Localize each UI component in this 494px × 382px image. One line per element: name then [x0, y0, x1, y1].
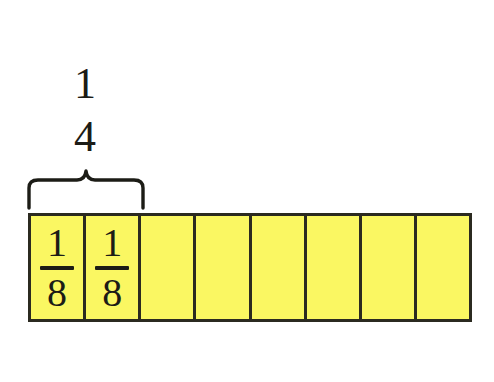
cell-denominator: 8 [47, 273, 67, 313]
cell-numerator: 1 [102, 223, 122, 263]
bar-cell [252, 216, 307, 319]
cell-fraction: 1 8 [40, 223, 74, 313]
fraction-bar: 1 8 1 8 [28, 213, 472, 322]
brace [22, 160, 150, 210]
fraction-numerator: 1 [74, 61, 96, 107]
bar-cell [141, 216, 196, 319]
cell-fraction: 1 8 [95, 223, 129, 313]
bar-cell [196, 216, 251, 319]
fraction-denominator: 4 [74, 114, 96, 160]
cell-fraction-rule [40, 266, 74, 270]
fraction-diagram: 1 4 1 8 1 8 [0, 0, 494, 382]
bar-cell [417, 216, 469, 319]
bar-cell: 1 8 [86, 216, 141, 319]
fraction-label-one-fourth: 1 4 [50, 62, 120, 158]
cell-fraction-rule [95, 266, 129, 270]
bar-cell [307, 216, 362, 319]
cell-numerator: 1 [47, 223, 67, 263]
bar-cell [362, 216, 417, 319]
cell-denominator: 8 [102, 273, 122, 313]
bar-cell: 1 8 [31, 216, 86, 319]
